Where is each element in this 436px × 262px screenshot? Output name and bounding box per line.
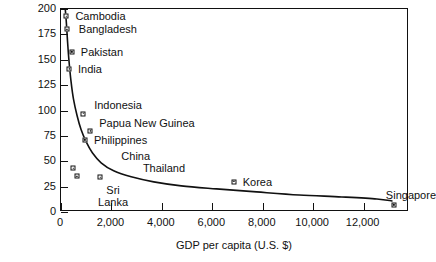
data-point-marker — [391, 202, 396, 207]
x-tick-mark — [364, 203, 365, 210]
x-tick-label: 0 — [57, 217, 63, 228]
x-tick-label: 6,000 — [198, 217, 226, 228]
y-tick-label: 100 — [38, 104, 56, 115]
data-point-marker — [98, 175, 103, 180]
data-point-label: Cambodia — [75, 10, 125, 22]
data-point-marker — [71, 166, 76, 171]
x-tick-mark — [61, 203, 62, 210]
plot-area: CambodiaBangladeshPakistanIndiaIndonesia… — [60, 8, 408, 211]
data-point-label: Thailand — [143, 162, 185, 174]
y-tick-mark — [61, 187, 68, 188]
data-point-label-line: Lanka — [98, 196, 128, 208]
x-tick-label: 12,000 — [346, 217, 380, 228]
y-tick-mark — [61, 9, 68, 10]
y-tick-label: 25 — [44, 180, 56, 191]
x-tick-mark — [212, 203, 213, 210]
data-point-marker — [69, 49, 74, 54]
x-tick-label: 10,000 — [295, 217, 329, 228]
x-axis-title: GDP per capita (U.S. $) — [60, 239, 408, 251]
y-tick-mark — [61, 161, 68, 162]
data-point-label: SriLanka — [98, 184, 128, 208]
x-tick-mark — [313, 203, 314, 210]
data-point-label: Papua New Guinea — [99, 117, 194, 129]
data-point-label: China — [121, 150, 150, 162]
y-tick-mark — [61, 85, 68, 86]
x-tick-mark — [162, 203, 163, 210]
data-point-marker — [88, 128, 93, 133]
x-tick-mark — [263, 203, 264, 210]
y-tick-mark — [61, 212, 68, 213]
data-point-marker — [67, 66, 72, 71]
data-point-label: Bangladesh — [79, 23, 137, 35]
data-point-label: Korea — [243, 176, 272, 188]
y-tick-label: 175 — [38, 28, 56, 39]
y-tick-mark — [61, 136, 68, 137]
y-tick-mark — [61, 60, 68, 61]
data-point-marker — [74, 174, 79, 179]
y-tick-mark — [61, 34, 68, 35]
y-tick-label: 75 — [44, 129, 56, 140]
y-tick-label: 200 — [38, 3, 56, 14]
data-point-label: India — [78, 63, 102, 75]
data-point-marker — [64, 27, 69, 32]
y-tick-label: 50 — [44, 155, 56, 166]
x-tick-label: 4,000 — [147, 217, 175, 228]
data-point-marker — [82, 137, 87, 142]
data-point-marker — [81, 111, 86, 116]
y-tick-label: 125 — [38, 79, 56, 90]
data-point-marker — [231, 179, 236, 184]
y-tick-label: 0 — [50, 206, 56, 217]
data-point-label-line: Sri — [98, 184, 128, 196]
data-point-label: Philippines — [94, 134, 147, 146]
x-tick-label: 8,000 — [248, 217, 276, 228]
data-point-label: Pakistan — [81, 46, 123, 58]
data-point-marker — [64, 14, 69, 19]
data-point-label: Singapore — [386, 189, 436, 201]
data-point-label: Indonesia — [94, 99, 142, 111]
y-tick-label: 150 — [38, 53, 56, 64]
y-tick-mark — [61, 111, 68, 112]
x-tick-label: 2,000 — [97, 217, 125, 228]
